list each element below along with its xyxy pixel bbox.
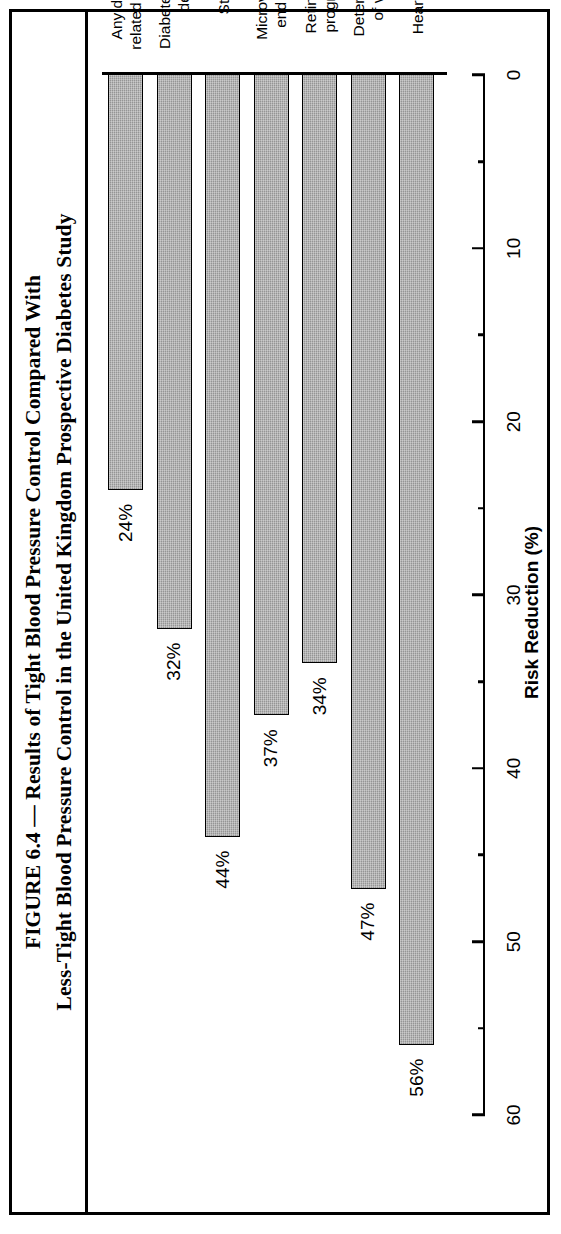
value-axis-major-tick [472,73,485,76]
category-axis-line [102,72,447,75]
bar-value-label: 44% [212,850,234,888]
category-axis-label: Retinopathy progression [301,0,339,62]
value-axis-major-tick [472,767,485,770]
value-axis-minor-tick [478,160,485,163]
figure-caption-line-2: Less-Tight Blood Pressure Control in the… [49,214,80,1011]
value-axis-major-tick [472,1113,485,1116]
value-axis-minor-tick [478,1027,485,1030]
category-axis-label: Microvascular end points [252,0,290,62]
value-axis-minor-tick [478,853,485,856]
bar [157,74,192,629]
bar [302,74,337,663]
value-axis-major-tick [472,247,485,250]
value-axis-title: Risk Reduction (%) [521,15,543,1210]
value-axis-minor-tick [478,507,485,510]
bar-value-label: 37% [260,729,282,767]
value-axis-major-tick [472,593,485,596]
bar [351,74,386,889]
figure-frame: FIGURE 6.4 — Results of Tight Blood Pres… [9,9,550,1215]
bar-value-label: 47% [357,902,379,940]
bar [399,74,434,1045]
value-axis: 0102030405060 [483,75,486,1115]
bar-value-label: 56% [406,1058,428,1096]
value-axis-major-tick [472,420,485,423]
bar-value-label: 24% [115,503,137,541]
bar-value-label: 34% [309,677,331,715]
category-axis-label: Diabetes-related death [155,0,193,62]
bar [205,74,240,837]
category-axis-label: Heart failure [407,0,426,62]
category-axis-label: Deterioration of vision [349,0,387,62]
value-axis-major-tick [472,940,485,943]
figure-caption-line-1: FIGURE 6.4 — Results of Tight Blood Pres… [18,275,49,949]
figure-caption-column: FIGURE 6.4 — Results of Tight Blood Pres… [12,12,88,1212]
value-axis-minor-tick [478,680,485,683]
bar-series: 24%Any diabetes- related end point32%Dia… [88,15,461,1210]
value-axis-minor-tick [478,333,485,336]
category-axis-label: Stroke [213,0,232,62]
category-axis-label: Any diabetes- related end point [107,0,145,62]
bar [254,74,289,715]
chart-plot-area: 24%Any diabetes- related end point32%Dia… [88,15,547,1210]
figure-caption: FIGURE 6.4 — Results of Tight Blood Pres… [13,22,85,1202]
bar-chart: 24%Any diabetes- related end point32%Dia… [88,15,547,1210]
chart-column: 24%Any diabetes- related end point32%Dia… [88,12,547,1212]
bar-value-label: 32% [163,642,185,680]
bar [108,74,143,490]
